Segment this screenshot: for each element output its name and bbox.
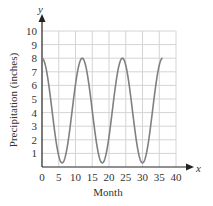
x-tick-label: 0 bbox=[39, 171, 45, 183]
y-tick-label: 4 bbox=[32, 107, 38, 119]
x-tick-label: 25 bbox=[120, 171, 132, 183]
x-tick-label: 5 bbox=[56, 171, 62, 183]
axes bbox=[39, 14, 195, 171]
y-axis-arrow-icon bbox=[39, 14, 46, 22]
grid bbox=[42, 31, 176, 167]
y-tick-label: 3 bbox=[32, 120, 38, 132]
y-tick-label: 6 bbox=[32, 79, 38, 91]
y-tick-label: 10 bbox=[26, 25, 38, 37]
precipitation-curve bbox=[42, 58, 163, 163]
x-axis-name: x bbox=[195, 162, 201, 174]
precipitation-chart: 051015202530354012345678910 Month Precip… bbox=[0, 0, 213, 206]
x-tick-label: 30 bbox=[137, 171, 149, 183]
y-tick-label: 8 bbox=[32, 52, 38, 64]
x-tick-label: 40 bbox=[171, 171, 183, 183]
x-axis-arrow-icon bbox=[186, 164, 194, 171]
x-axis-label: Month bbox=[93, 186, 123, 198]
y-tick-label: 1 bbox=[32, 147, 38, 159]
x-tick-label: 15 bbox=[87, 171, 99, 183]
y-tick-label: 7 bbox=[32, 66, 38, 78]
y-axis-label: Precipitation (inches) bbox=[7, 52, 20, 147]
y-axis-name: y bbox=[37, 3, 43, 15]
x-tick-label: 35 bbox=[154, 171, 166, 183]
x-tick-label: 10 bbox=[70, 171, 82, 183]
y-tick-label: 2 bbox=[32, 134, 38, 146]
x-tick-label: 20 bbox=[104, 171, 116, 183]
y-tick-label: 5 bbox=[32, 93, 38, 105]
y-tick-label: 9 bbox=[32, 39, 38, 51]
